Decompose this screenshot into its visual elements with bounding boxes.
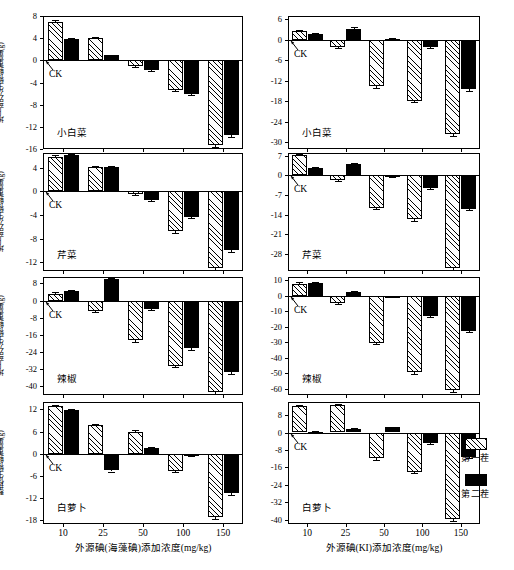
y-tick-mark <box>285 485 288 486</box>
x-tick-label: 150 <box>454 529 468 539</box>
bar-left-3-50-s2 <box>144 301 159 310</box>
y-tick-label: -12 <box>9 494 37 503</box>
error-bar-cap <box>132 195 139 196</box>
x-tick-mark <box>103 149 104 152</box>
bar-left-1-25-s1 <box>88 38 103 60</box>
x-tick-mark <box>143 524 144 527</box>
error-bar-cap <box>351 291 358 292</box>
bar-left-4-50-s2 <box>144 448 159 454</box>
x-tick-label: 25 <box>98 529 108 539</box>
error-bar-cap <box>427 189 434 190</box>
error-bar-cap <box>411 473 418 474</box>
bar-right-2-10-s2 <box>308 168 323 176</box>
bar-right-2-10-s1 <box>292 155 307 176</box>
error-bar-cap <box>335 304 342 305</box>
x-tick-mark <box>103 524 104 527</box>
error-bar-cap <box>373 88 380 89</box>
y-tick-mark <box>40 476 43 477</box>
error-bar-cap <box>172 91 179 92</box>
x-tick-mark <box>143 149 144 152</box>
y-tick-mark <box>285 280 288 281</box>
x-tick-label: 150 <box>216 529 230 539</box>
y-tick-label: -20 <box>254 322 282 331</box>
error-bar-cap <box>68 290 75 291</box>
bar-left-3-150-s2 <box>224 301 239 372</box>
bar-right-1-10-s2 <box>308 34 323 40</box>
bar-left-4-100-s1 <box>168 454 183 471</box>
ck-pointer-arrow-icon <box>289 296 303 310</box>
y-tick-mark <box>285 327 288 328</box>
error-bar-cap <box>373 209 380 210</box>
bar-left-2-150-s1 <box>208 191 223 268</box>
y-tick-mark <box>40 262 43 263</box>
error-bar-cap <box>466 91 473 92</box>
error-bar-cap <box>52 292 59 293</box>
x-tick-mark <box>307 149 308 152</box>
error-bar-cap <box>335 181 342 182</box>
y-tick-label: -40 <box>254 515 282 524</box>
y-tick-label: 0 <box>9 450 37 459</box>
x-tick-mark <box>384 395 385 398</box>
x-tick-mark <box>422 524 423 527</box>
error-bar-cap <box>228 137 235 138</box>
y-tick-label: 8 <box>9 279 37 288</box>
y-tick-mark <box>285 60 288 61</box>
bar-left-2-150-s2 <box>224 191 239 250</box>
error-bar-cap <box>132 342 139 343</box>
panel-title-left-4: 白萝卜 <box>57 504 87 514</box>
y-tick-mark <box>285 254 288 255</box>
bar-left-4-150-s1 <box>208 454 223 518</box>
error-bar-cap <box>296 282 303 283</box>
y-tick-mark <box>285 311 288 312</box>
panel-title-right-4: 白萝卜 <box>302 504 332 514</box>
y-tick-mark <box>285 142 288 143</box>
error-bar-cap <box>68 409 75 410</box>
bar-right-4-50-s1 <box>369 433 384 459</box>
x-tick-mark <box>422 149 423 152</box>
y-tick-label: -16 <box>9 145 37 154</box>
y-tick-mark <box>40 16 43 17</box>
x-axis-title-right: 外源碘(KI)添加浓度(mg/kg) <box>326 544 443 554</box>
y-tick-label: -12 <box>9 123 37 132</box>
bar-right-1-150-s2 <box>461 40 476 89</box>
y-tick-mark <box>285 389 288 390</box>
y-tick-label: -30 <box>254 338 282 347</box>
x-tick-label: 10 <box>58 529 68 539</box>
x-tick-mark <box>223 395 224 398</box>
y-tick-label: 12 <box>9 405 37 414</box>
error-bar-cap <box>132 67 139 68</box>
y-tick-label: -8 <box>9 314 37 323</box>
bar-left-4-25-s2 <box>104 454 119 471</box>
y-tick-label: -18 <box>9 516 37 525</box>
bar-right-4-100-s1 <box>407 433 422 472</box>
y-tick-label: 0 <box>254 171 282 180</box>
error-bar-cap <box>389 427 396 428</box>
error-bar-cap <box>312 167 319 168</box>
y-tick-label: 0 <box>254 291 282 300</box>
y-tick-mark <box>40 369 43 370</box>
error-bar-cap <box>108 472 115 473</box>
y-tick-mark <box>40 215 43 216</box>
bar-right-3-50-s1 <box>369 296 384 343</box>
y-tick-label: -24 <box>254 117 282 126</box>
y-tick-mark <box>285 19 288 20</box>
bar-left-3-25-s2 <box>104 279 119 300</box>
y-tick-label: 0 <box>254 428 282 437</box>
error-bar-cap <box>228 374 235 375</box>
y-tick-mark <box>285 234 288 235</box>
y-tick-label: -28 <box>254 250 282 259</box>
y-tick-label: -14 <box>254 211 282 220</box>
bar-right-3-25-s1 <box>330 296 345 304</box>
y-tick-label: -16 <box>9 331 37 340</box>
y-tick-mark <box>285 156 288 157</box>
error-bar-cap <box>108 278 115 279</box>
x-tick-mark <box>384 149 385 152</box>
ck-pointer-arrow-icon <box>44 454 58 468</box>
y-tick-label: 10 <box>254 276 282 285</box>
error-bar-cap <box>389 38 396 39</box>
error-bar-cap <box>335 48 342 49</box>
x-tick-mark <box>384 271 385 274</box>
bar-left-4-25-s1 <box>88 425 103 453</box>
error-bar-cap <box>389 297 396 298</box>
bar-left-3-100-s2 <box>184 301 199 349</box>
